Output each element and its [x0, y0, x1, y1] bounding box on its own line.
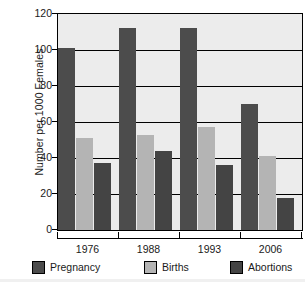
bar-group [180, 14, 241, 230]
y-axis-tick-label: 40 [18, 151, 52, 163]
x-axis-tick-mark [118, 232, 119, 239]
legend-label-abortions: Abortions [248, 261, 292, 273]
x-axis-tick-mark [240, 232, 241, 239]
y-axis-tick-labels: 020406080100120 [18, 8, 52, 234]
x-axis-tick-label-2006: 2006 [241, 243, 301, 255]
x-axis-tick-label-1993: 1993 [180, 243, 240, 255]
plot-area [57, 13, 303, 231]
legend-label-pregnancy: Pregnancy [50, 261, 100, 273]
x-axis-tick-mark [179, 232, 180, 239]
x-axis-tick-label-1976: 1976 [58, 243, 118, 255]
bar-births-1993 [198, 127, 215, 230]
y-axis-tick-label: 80 [18, 79, 52, 91]
bar-pregnancy-1988 [119, 28, 136, 230]
y-axis-tick-label: 100 [18, 43, 52, 55]
chart-legend: PregnancyBirthsAbortions [32, 259, 300, 277]
legend-swatch-pregnancy [32, 261, 45, 274]
legend-item-pregnancy: Pregnancy [32, 259, 100, 275]
bar-births-1976 [76, 138, 93, 230]
bar-abortions-2006 [277, 198, 294, 230]
bar-abortions-1988 [155, 151, 172, 230]
bar-chart-figure: Number per 1000 Females 020406080100120 … [0, 0, 305, 282]
y-axis-tick-label: 120 [18, 7, 52, 19]
x-axis-tick-mark [57, 232, 58, 239]
legend-swatch-births [144, 261, 157, 274]
bar-pregnancy-2006 [241, 104, 258, 230]
bar-group [241, 14, 302, 230]
bar-group [119, 14, 180, 230]
x-axis-tick-label-1988: 1988 [119, 243, 179, 255]
bar-abortions-1976 [94, 163, 111, 230]
bar-pregnancy-1976 [58, 48, 75, 230]
bar-abortions-1993 [216, 165, 233, 230]
y-axis-tick-label: 20 [18, 187, 52, 199]
y-axis-tick-label: 60 [18, 115, 52, 127]
bar-births-2006 [259, 156, 276, 230]
bar-pregnancy-1993 [180, 28, 197, 230]
bar-series-container [58, 14, 302, 230]
y-axis-tick-label: 0 [18, 223, 52, 235]
bar-births-1988 [137, 135, 154, 230]
legend-swatch-abortions [230, 261, 243, 274]
legend-label-births: Births [162, 261, 189, 273]
legend-item-abortions: Abortions [230, 259, 292, 275]
legend-item-births: Births [144, 259, 189, 275]
bar-group [58, 14, 119, 230]
x-axis-tick-mark [301, 232, 302, 239]
